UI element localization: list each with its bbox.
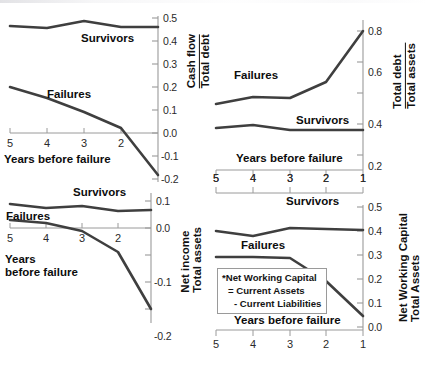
chart-panel-total-debt-total-assets: Failures Survivors 0.8 0.6 0.4 0.2 5 4 3… [212,0,425,182]
x-tick-label-top: 4 [247,172,259,184]
x-tick-label: 3 [76,232,88,244]
y-tick-label: -0.1 [154,276,171,288]
x-axis-title: Years before failure [5,253,78,279]
series-label-failures: Failures [241,239,285,251]
series-line-survivors [10,21,158,28]
series-label-survivors: Survivors [73,186,126,198]
y-tick-label: 0.3 [368,249,382,261]
series-label-failures: Failures [6,210,50,222]
y-axis-title-denominator: Total assets [406,43,418,109]
y-axis-title-numerator: Cash flow [186,34,200,88]
y-tick-label: 0.4 [163,35,177,47]
y-tick-label: 0.4 [368,118,382,130]
note-line-1: *Net Working Capital [222,272,321,285]
x-axis-title-line1: Years [5,253,36,265]
series-line-failures [216,31,363,104]
net-working-capital-note: *Net Working Capital = Current Assets - … [217,268,327,314]
y-tick-label: 0.1 [156,195,170,207]
note-line-2: = Current Assets [222,285,321,298]
y-tick-label: 0.2 [368,273,382,285]
x-axis-title: Years before failure [236,152,343,165]
y-tick-label: 0.1 [368,297,382,309]
x-tick-label-top: 2 [320,172,332,184]
y-axis-title-denominator: Total assets [192,227,204,293]
y-axis-title-cash-flow-total-debt: Cash flow Total debt [186,34,212,88]
x-tick-label: 3 [284,338,296,350]
y-axis-title-net-working-capital-total-assets: Net Working Capital Total Assets [398,213,422,322]
x-tick-label: 2 [320,338,332,350]
y-tick-label: 0.0 [368,321,382,333]
y-tick-label: 0.3 [163,58,177,70]
series-label-failures: Failures [47,88,91,100]
x-tick-label: 4 [41,137,53,149]
y-axis-title-denominator: Total Assets [410,213,422,322]
x-tick-label: 5 [4,232,16,244]
series-line-survivors [216,228,363,236]
y-tick-label: 0.6 [368,66,382,78]
x-axis-title-line2: before failure [5,266,78,278]
series-label-survivors: Survivors [296,114,349,126]
y-tick-label: 0.5 [368,201,382,213]
x-tick-label: 3 [78,137,90,149]
y-tick-label: 0.4 [368,225,382,237]
x-tick-label: 5 [4,137,16,149]
chart-panel-net-working-capital-total-assets: Survivors Failures 0.5 0.4 0.3 0.2 0.1 0… [212,183,425,365]
four-panel-financial-ratio-figure: Survivors Failures 0.5 0.4 0.3 0.2 0.1 0… [0,0,425,365]
x-tick-label-top: 3 [284,172,296,184]
x-tick-label: 1 [357,338,369,350]
y-tick-label: 0.2 [368,160,382,172]
note-line-3: - Current Liabilities [222,298,321,311]
series-label-survivors: Survivors [81,32,134,44]
chart-panel-cash-flow-total-debt: Survivors Failures 0.5 0.4 0.3 0.2 0.1 0… [0,0,212,182]
x-tick-label-top: 5 [210,172,222,184]
y-tick-label: -0.2 [154,330,171,342]
chart-panel-net-income-total-assets: Survivors Failures 0.1 0.0 -0.1 -0.2 5 4… [0,183,212,365]
y-axis-title-numerator: Total debt [392,43,406,109]
y-axis-title-net-income-total-assets: Net income Total assets [180,227,204,293]
x-tick-label: 4 [40,232,52,244]
y-tick-label: 0.1 [163,104,177,116]
y-axis-title-denominator: Total debt [200,34,212,88]
y-tick-label: 0.8 [368,25,382,37]
y-tick-label: 0.2 [163,81,177,93]
y-tick-label: 0.0 [163,127,177,139]
x-tick-label-top: 1 [357,172,369,184]
y-tick-label: 0.5 [163,12,177,24]
series-label-failures: Failures [234,69,278,81]
x-tick-label: 5 [210,338,222,350]
y-axis-title-total-debt-total-assets: Total debt Total assets [392,43,418,109]
y-tick-label: -0.1 [161,150,178,162]
x-axis-title: Years before failure [4,153,111,166]
x-tick-label: 2 [112,232,124,244]
y-tick-label: 0.0 [156,222,170,234]
x-axis-title: Years before failure [234,314,341,327]
x-tick-label: 2 [115,137,127,149]
x-tick-label: 4 [247,338,259,350]
series-label-survivors: Survivors [286,195,339,207]
